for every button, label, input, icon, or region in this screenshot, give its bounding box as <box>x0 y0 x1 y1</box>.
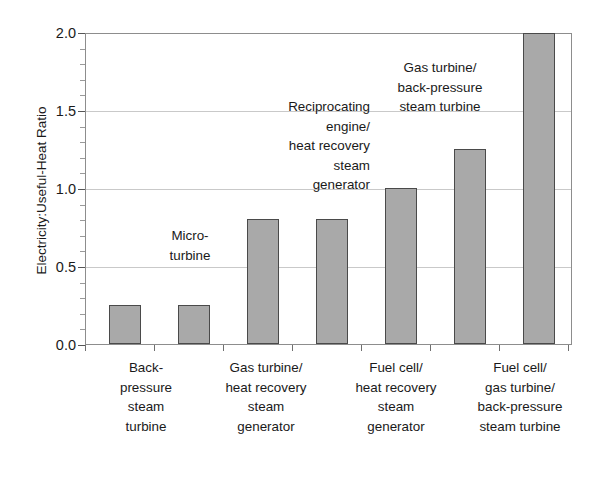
annotation-micro-turbine: Micro- turbine <box>140 226 240 265</box>
y-tick-mark-major <box>78 111 85 112</box>
y-tick-label: 1.0 <box>28 182 76 197</box>
bar-reciprocating-engine-hrsg <box>247 219 279 344</box>
y-tick-mark-major <box>78 267 85 268</box>
x-axis-label-fuel-cell-hrsg: Fuel cell/ heat recovery steam generator <box>330 358 462 436</box>
annotation-reciprocating-engine: Reciprocating engine/ heat recovery stea… <box>218 97 370 195</box>
y-tick-label: 2.0 <box>28 26 76 41</box>
x-tick-mark <box>430 345 431 351</box>
x-axis-label-fuel-cell-gas-turbine: Fuel cell/ gas turbine/ back-pressure st… <box>455 358 585 436</box>
y-tick-mark-major <box>78 189 85 190</box>
bar-fuel-cell-gas-turbine-back-pressure <box>523 33 555 344</box>
x-tick-mark <box>85 345 86 351</box>
x-axis-label-back-pressure-steam-turbine: Back- pressure steam turbine <box>88 358 204 436</box>
bar-gas-turbine-back-pressure <box>454 149 486 344</box>
x-tick-mark <box>154 345 155 351</box>
y-tick-label: 1.5 <box>28 104 76 119</box>
x-tick-mark <box>499 345 500 351</box>
x-tick-mark <box>223 345 224 351</box>
x-tick-mark <box>361 345 362 351</box>
y-tick-label: 0.5 <box>28 260 76 275</box>
y-axis-ticks: 2.0 1.5 1.0 0.5 0.0 <box>0 0 85 478</box>
bar-back-pressure-steam-turbine <box>109 305 141 344</box>
bar-chart: Electricity:Useful-Heat Ratio 2.0 1.5 1.… <box>0 0 595 478</box>
x-tick-mark <box>568 345 569 351</box>
bar-gas-turbine-hrsg <box>316 219 348 344</box>
y-tick-mark-major <box>78 345 85 346</box>
bar-fuel-cell-hrsg <box>385 188 417 344</box>
bar-micro-turbine <box>178 305 210 344</box>
x-axis-label-gas-turbine-hrsg: Gas turbine/ heat recovery steam generat… <box>200 358 332 436</box>
annotation-gas-turbine-back-pressure: Gas turbine/ back-pressure steam turbine <box>360 58 520 117</box>
y-tick-mark-major <box>78 33 85 34</box>
y-tick-label: 0.0 <box>28 338 76 353</box>
x-tick-mark <box>292 345 293 351</box>
